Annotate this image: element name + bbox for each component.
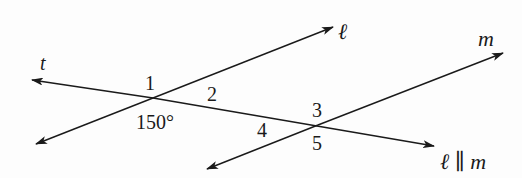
angle-label-4: 4 [257, 119, 267, 141]
label-m: m [478, 26, 494, 51]
angle-label-150: 150° [136, 111, 174, 133]
line-t [32, 80, 434, 146]
angle-label-5: 5 [312, 132, 322, 154]
line-l [36, 27, 333, 144]
label-t: t [40, 52, 46, 74]
angle-label-3: 3 [312, 99, 322, 121]
label-l: ℓ [338, 19, 348, 44]
angle-label-2: 2 [207, 83, 217, 105]
parallel-statement: ℓ ∥ m [440, 149, 486, 174]
angle-label-1: 1 [145, 72, 155, 94]
geometry-diagram: t ℓ m ℓ ∥ m 1 2 150° 3 4 5 [0, 0, 522, 178]
diagram-svg: t ℓ m ℓ ∥ m 1 2 150° 3 4 5 [0, 0, 522, 178]
